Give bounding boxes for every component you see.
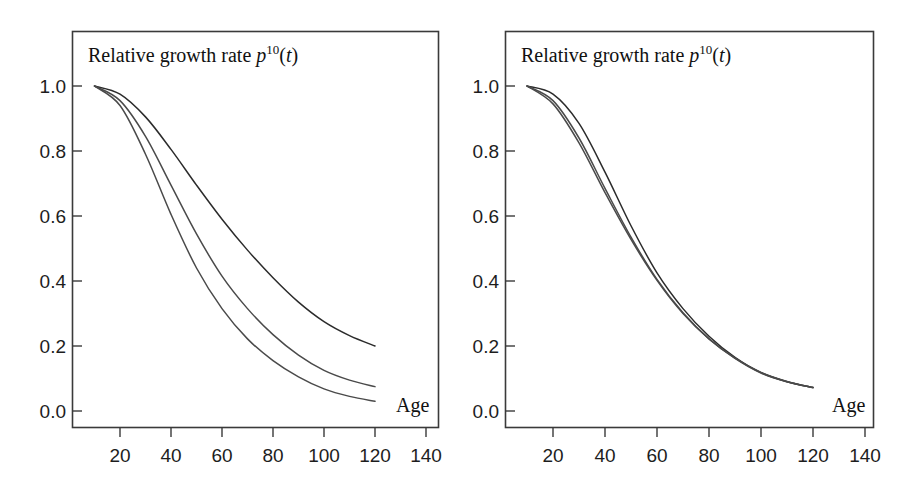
x-tick-label: 60 bbox=[646, 445, 667, 466]
y-tick-label: 0.0 bbox=[40, 401, 66, 422]
title-argument-close: ) bbox=[725, 44, 732, 67]
y-tick-label: 0.8 bbox=[473, 141, 499, 162]
x-tick-label: 140 bbox=[849, 445, 881, 466]
title-symbol: p bbox=[687, 44, 699, 67]
curve-group bbox=[95, 86, 376, 401]
title-superscript: 10 bbox=[266, 42, 279, 57]
plot-frame bbox=[506, 32, 874, 428]
y-tick-label: 0.6 bbox=[473, 206, 499, 227]
x-axis-title: Age bbox=[832, 394, 865, 417]
x-axis-tick-labels: 20 40 60 80 100 120 140 bbox=[109, 445, 441, 466]
y-tick-label: 0.2 bbox=[40, 336, 66, 357]
chart-panel-right: Relative growth rate p10(t) 1.0 0.8 0.6 … bbox=[450, 0, 905, 483]
x-axis-title: Age bbox=[396, 394, 429, 417]
plot-title: Relative growth rate p10(t) bbox=[521, 42, 731, 67]
title-argument-close: ) bbox=[292, 44, 299, 67]
y-tick-label: 0.2 bbox=[473, 336, 499, 357]
chart-panel-left: Relative growth rate p10(t) 1.0 0.8 0.6 … bbox=[0, 0, 455, 483]
plot-title: Relative growth rate p10(t) bbox=[88, 42, 298, 67]
x-tick-label: 80 bbox=[698, 445, 719, 466]
y-tick-label: 0.8 bbox=[40, 141, 66, 162]
curve-upper bbox=[527, 86, 813, 388]
y-tick-label: 0.6 bbox=[40, 206, 66, 227]
title-text: Relative growth rate bbox=[88, 44, 256, 67]
curve-group bbox=[527, 86, 813, 388]
curve-lower bbox=[95, 86, 376, 401]
x-axis-ticks bbox=[120, 428, 426, 438]
x-tick-label: 120 bbox=[359, 445, 391, 466]
plot-frame bbox=[73, 32, 439, 428]
y-axis-ticks bbox=[506, 86, 516, 411]
curve-middle bbox=[95, 86, 376, 387]
y-axis-tick-labels: 1.0 0.8 0.6 0.4 0.2 0.0 bbox=[40, 76, 67, 422]
x-tick-label: 140 bbox=[410, 445, 442, 466]
curve-upper bbox=[95, 86, 376, 346]
curve-lower bbox=[527, 86, 813, 388]
y-tick-label: 1.0 bbox=[473, 76, 499, 97]
title-text: Relative growth rate bbox=[521, 44, 689, 67]
chart-svg-left: Relative growth rate p10(t) 1.0 0.8 0.6 … bbox=[0, 0, 455, 483]
x-tick-label: 100 bbox=[745, 445, 777, 466]
title-superscript: 10 bbox=[699, 42, 712, 57]
y-tick-label: 0.4 bbox=[40, 271, 67, 292]
x-tick-label: 80 bbox=[262, 445, 283, 466]
x-axis-tick-labels: 20 40 60 80 100 120 140 bbox=[542, 445, 880, 466]
y-tick-label: 0.4 bbox=[473, 271, 500, 292]
y-axis-tick-labels: 1.0 0.8 0.6 0.4 0.2 0.0 bbox=[473, 76, 500, 422]
figure-root: Relative growth rate p10(t) 1.0 0.8 0.6 … bbox=[0, 0, 905, 483]
x-tick-label: 120 bbox=[797, 445, 829, 466]
x-axis-ticks bbox=[553, 428, 865, 438]
x-tick-label: 20 bbox=[109, 445, 130, 466]
curve-middle bbox=[527, 86, 813, 388]
y-axis-ticks bbox=[73, 86, 83, 411]
x-tick-label: 60 bbox=[211, 445, 232, 466]
x-tick-label: 20 bbox=[542, 445, 563, 466]
x-tick-label: 100 bbox=[308, 445, 340, 466]
chart-svg-right: Relative growth rate p10(t) 1.0 0.8 0.6 … bbox=[450, 0, 905, 483]
x-tick-label: 40 bbox=[594, 445, 615, 466]
title-symbol: p bbox=[254, 44, 266, 67]
y-tick-label: 1.0 bbox=[40, 76, 66, 97]
x-tick-label: 40 bbox=[160, 445, 181, 466]
y-tick-label: 0.0 bbox=[473, 401, 499, 422]
